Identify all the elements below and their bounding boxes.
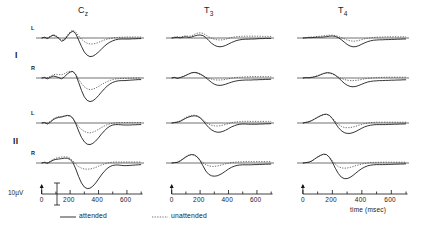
stimulus-onset-arrow-T3 (170, 184, 174, 188)
legend-item-unattended: unattended (171, 212, 207, 219)
xtick-label-Cz-400: 400 (92, 196, 103, 203)
legend-item-attended: attended (79, 212, 107, 219)
xtick-label-T4-600: 600 (384, 196, 395, 203)
stimulus-onset-arrow-T4 (301, 184, 305, 188)
xtick-label-Cz-200: 200 (63, 196, 74, 203)
x-axis-title: time (msec) (350, 206, 386, 213)
xtick-label-T3-0: 0 (170, 196, 174, 203)
xtick-label-T4-400: 400 (355, 196, 366, 203)
xtick-label-T4-200: 200 (325, 196, 336, 203)
xtick-label-T4-0: 0 (301, 196, 305, 203)
xtick-label-Cz-600: 600 (120, 196, 131, 203)
erp-figure: Cz T3 T4 I II L R L R 10µV time (msec) a… (0, 0, 425, 231)
stimulus-onset-arrow-Cz (40, 184, 44, 188)
xtick-label-T3-400: 400 (222, 196, 233, 203)
xtick-label-T3-600: 600 (250, 196, 261, 203)
xtick-label-T3-200: 200 (193, 196, 204, 203)
xtick-label-Cz-0: 0 (40, 196, 44, 203)
